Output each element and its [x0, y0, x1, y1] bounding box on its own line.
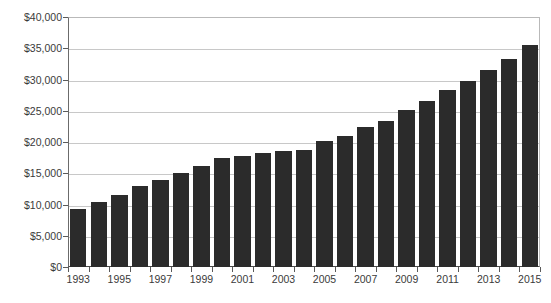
- bar: [480, 70, 496, 267]
- x-axis-tick-label: 1999: [190, 274, 213, 286]
- x-axis-tick-mark: [335, 267, 336, 272]
- x-axis-tick-mark: [458, 267, 459, 272]
- x-axis-tick-label: 2011: [436, 274, 459, 286]
- y-axis-tick-label: $30,000: [0, 74, 62, 85]
- x-axis-ticks: [68, 267, 540, 272]
- x-axis-tick-mark: [437, 267, 438, 272]
- bar: [111, 195, 127, 268]
- y-axis-tick-label: $5,000: [0, 231, 62, 242]
- x-axis-tick-mark: [376, 267, 377, 272]
- bar-chart-figure: $0$5,000$10,000$15,000$20,000$25,000$30,…: [0, 0, 551, 303]
- x-axis-tick-label: 2015: [518, 274, 541, 286]
- bars-layer: [68, 17, 540, 267]
- y-axis-tick-label: $40,000: [0, 12, 62, 23]
- bar: [316, 141, 332, 267]
- x-axis: 1993199519971999200120032005200720092011…: [0, 274, 551, 290]
- y-axis: $0$5,000$10,000$15,000$20,000$25,000$30,…: [0, 0, 62, 303]
- bar: [193, 166, 209, 267]
- x-axis-tick-mark: [130, 267, 131, 272]
- x-axis-tick-mark: [191, 267, 192, 272]
- bar: [275, 151, 291, 267]
- x-axis-tick-mark: [294, 267, 295, 272]
- x-axis-tick-label: 1993: [67, 274, 90, 286]
- bar: [398, 110, 414, 267]
- x-axis-tick-label: 2001: [231, 274, 254, 286]
- x-axis-tick-mark: [68, 267, 69, 272]
- x-axis-tick-mark: [519, 267, 520, 272]
- y-axis-tick-label: $25,000: [0, 106, 62, 117]
- bar: [234, 156, 250, 267]
- bar: [91, 202, 107, 267]
- x-axis-tick-label: 2005: [313, 274, 336, 286]
- bar: [296, 150, 312, 268]
- x-axis-tick-mark: [396, 267, 397, 272]
- bar: [439, 90, 455, 267]
- bar: [132, 186, 148, 267]
- bar: [337, 136, 353, 267]
- y-axis-tick-label: $20,000: [0, 137, 62, 148]
- x-axis-tick-label: 2013: [477, 274, 500, 286]
- bar: [460, 81, 476, 267]
- bar: [173, 173, 189, 267]
- bar: [152, 180, 168, 268]
- x-axis-tick-mark: [150, 267, 151, 272]
- x-axis-tick-mark: [273, 267, 274, 272]
- x-axis-tick-mark: [253, 267, 254, 272]
- x-axis-tick-mark: [540, 267, 541, 272]
- x-axis-tick-mark: [171, 267, 172, 272]
- x-axis-tick-mark: [499, 267, 500, 272]
- x-axis-tick-mark: [89, 267, 90, 272]
- x-axis-tick-mark: [232, 267, 233, 272]
- x-axis-tick-mark: [355, 267, 356, 272]
- x-axis-tick-mark: [417, 267, 418, 272]
- x-axis-tick-label: 1995: [108, 274, 131, 286]
- x-axis-tick-mark: [109, 267, 110, 272]
- y-axis-tick-label: $35,000: [0, 43, 62, 54]
- x-axis-tick-mark: [212, 267, 213, 272]
- y-axis-tick-label: $10,000: [0, 199, 62, 210]
- x-axis-tick-label: 2003: [272, 274, 295, 286]
- y-axis-tick-label: $15,000: [0, 168, 62, 179]
- bar: [214, 158, 230, 267]
- x-axis-tick-label: 2007: [354, 274, 377, 286]
- bar: [255, 153, 271, 267]
- bar: [70, 209, 86, 267]
- bar: [357, 127, 373, 267]
- bar: [419, 101, 435, 267]
- x-axis-tick-label: 2009: [395, 274, 418, 286]
- y-axis-tick-label: $0: [0, 262, 62, 273]
- bar: [378, 121, 394, 267]
- x-axis-tick-mark: [478, 267, 479, 272]
- x-axis-tick-mark: [314, 267, 315, 272]
- bar: [501, 59, 517, 267]
- bar: [522, 45, 538, 268]
- x-axis-tick-label: 1997: [149, 274, 172, 286]
